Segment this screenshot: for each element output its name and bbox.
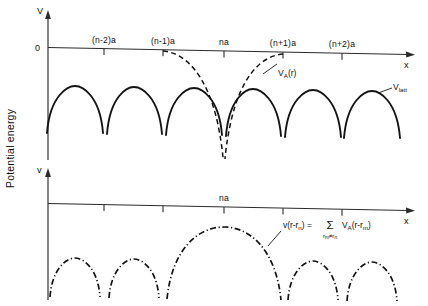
y-axis-group-label: Potential energy: [5, 108, 16, 188]
lower-panel: v x na: [37, 165, 415, 301]
summed-arch-3: [288, 261, 338, 300]
summed-potential-curve: [50, 227, 397, 301]
upper-tick-label-3: (n+1)a: [270, 38, 296, 48]
lattice-arch-1: [107, 87, 162, 134]
atomic-potential-annotation: VA(r): [263, 64, 297, 79]
figure-canvas: Potential energy V 0 x: [0, 0, 428, 306]
summed-arch-center: [167, 227, 281, 300]
upper-zero-label: 0: [35, 43, 40, 53]
formula-lhs-close: ) =: [302, 220, 312, 230]
summed-arch-1: [109, 259, 159, 298]
lower-tick-label-2: na: [219, 193, 229, 203]
upper-tick-label-2: na: [219, 37, 229, 47]
upper-horizontal-axis-arrowhead: [406, 52, 415, 58]
atomic-potential-label-arg: (r): [288, 68, 297, 78]
lower-vertical-axis-label: v: [37, 165, 42, 175]
upper-horizontal-axis-label: x: [404, 60, 409, 70]
upper-panel: V 0 x (n-2)a (n-1)a na: [35, 6, 415, 160]
lower-horizontal-axis-line: [48, 204, 408, 211]
summed-potential-formula: v(r-rn) =: [283, 220, 312, 231]
lattice-potential-label: Vlatt: [393, 82, 407, 93]
upper-tick-label-4: (n+2)a: [329, 39, 355, 49]
lower-horizontal-axis-label: x: [404, 216, 409, 226]
formula-sigma: Σ: [326, 219, 333, 231]
lattice-potential-leader-line: [378, 88, 392, 93]
formula-lhs: v(r-r: [283, 220, 299, 230]
upper-axis-tick-labels: (n-2)a (n-1)a na (n+1)a (n+2)a: [92, 35, 355, 49]
upper-tick-label-0: (n-2)a: [92, 35, 116, 45]
atomic-potential-label: VA(r): [278, 68, 297, 79]
formula-sigma-sub-b-sub: n: [334, 235, 337, 240]
y-axis-label-text: Potential energy: [5, 108, 16, 188]
upper-horizontal-axis: x: [48, 48, 415, 71]
lower-horizontal-axis-arrowhead: [406, 208, 415, 214]
lower-vertical-axis-arrowhead: [45, 168, 51, 177]
upper-vertical-axis: V: [37, 6, 51, 160]
summed-arch-0: [50, 258, 100, 297]
lattice-potential-curve: [47, 86, 400, 138]
upper-tick-label-1: (n-1)a: [151, 36, 175, 46]
lattice-arch-0: [47, 86, 103, 133]
potential-energy-figure: Potential energy V 0 x: [0, 0, 428, 306]
atomic-potential-curve: [163, 51, 283, 159]
formula-sigma-subscript: rm≠rn: [323, 232, 338, 240]
atomic-potential-leader-line: [263, 64, 277, 74]
lattice-arch-3: [226, 89, 281, 136]
upper-vertical-axis-arrowhead: [45, 10, 51, 19]
summed-potential-annotation: v(r-rn) = Σ rm≠rn VA(r-rm): [268, 219, 371, 246]
formula-rhs: VA(r-rm): [342, 220, 371, 231]
lattice-arch-4: [285, 90, 341, 137]
lattice-arch-2: [166, 88, 222, 135]
summed-potential-leader-line: [268, 231, 281, 246]
lattice-arch-5: [344, 91, 400, 138]
lattice-potential-label-sub: latt: [399, 86, 408, 93]
summed-arch-4: [347, 262, 397, 301]
lattice-potential-annotation: Vlatt: [378, 82, 407, 93]
formula-rhs-arg: (r-r: [352, 220, 363, 230]
lower-vertical-axis: v: [37, 165, 51, 300]
upper-axis-ticks: [104, 49, 342, 60]
lower-axis-ticks: [104, 205, 342, 216]
formula-rhs-close: ): [368, 220, 371, 230]
upper-vertical-axis-label: V: [37, 6, 44, 16]
